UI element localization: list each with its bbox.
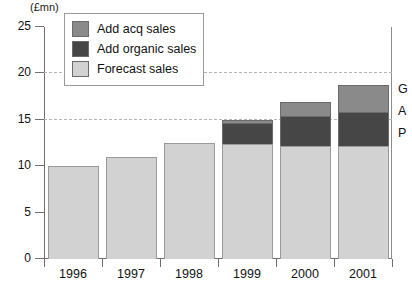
y-axis-tick: 10	[35, 165, 44, 166]
x-axis-tick	[44, 259, 45, 267]
legend: Add acq sales Add organic sales Forecast…	[64, 13, 204, 86]
legend-swatch-add-organic-sales	[72, 41, 89, 57]
x-axis-tick	[102, 259, 103, 267]
bar-segment-forecast-sales-2000[interactable]	[280, 146, 331, 259]
bar-segment-forecast-sales-1999[interactable]	[222, 144, 273, 259]
bar-segment-forecast-sales-1998[interactable]	[164, 143, 215, 259]
bar-2001[interactable]	[338, 85, 389, 259]
x-axis-label-1996: 1996	[48, 266, 99, 282]
bar-segment-add-acq-sales-2000[interactable]	[280, 102, 331, 116]
bar-segment-add-organic-sales-2001[interactable]	[338, 112, 389, 145]
bar-segment-forecast-sales-1997[interactable]	[106, 157, 157, 259]
x-axis-label-2000: 2000	[280, 266, 331, 282]
y-axis-tick-label: 0	[24, 251, 31, 266]
legend-swatch-forecast-sales	[72, 61, 89, 77]
legend-item-add-acq-sales[interactable]: Add acq sales	[72, 19, 196, 39]
x-axis-tick	[218, 259, 219, 267]
x-axis-tick	[334, 259, 335, 267]
x-axis-tick	[392, 259, 393, 267]
y-axis-tick-label: 20	[18, 65, 31, 80]
legend-label-add-organic-sales: Add organic sales	[97, 42, 196, 57]
bar-1999[interactable]	[222, 120, 273, 259]
bar-chart: (£mn) 0510152025 19961997199819992000200…	[0, 0, 412, 288]
legend-label-add-acq-sales: Add acq sales	[97, 22, 176, 37]
legend-swatch-add-acq-sales	[72, 21, 89, 37]
x-axis-label-1999: 1999	[222, 266, 273, 282]
bar-1997[interactable]	[106, 157, 157, 259]
x-axis-tick	[276, 259, 277, 267]
annotation-a: A	[398, 104, 406, 119]
bar-segment-forecast-sales-1996[interactable]	[48, 166, 99, 259]
x-axis-label-1998: 1998	[164, 266, 215, 282]
legend-item-add-organic-sales[interactable]: Add organic sales	[72, 39, 196, 59]
bar-2000[interactable]	[280, 102, 331, 259]
annotation-p: P	[398, 126, 406, 141]
bar-segment-forecast-sales-2001[interactable]	[338, 146, 389, 259]
y-axis-tick-label: 10	[18, 158, 31, 173]
bar-1998[interactable]	[164, 143, 215, 259]
legend-item-forecast-sales[interactable]: Forecast sales	[72, 59, 196, 79]
y-axis-tick: 15	[35, 119, 44, 120]
x-axis-label-2001: 2001	[338, 266, 389, 282]
y-axis-tick: 0	[35, 258, 44, 259]
y-axis-tick: 25	[35, 26, 44, 27]
legend-label-forecast-sales: Forecast sales	[97, 62, 178, 77]
bar-segment-add-acq-sales-2001[interactable]	[338, 85, 389, 113]
x-axis-label-1997: 1997	[106, 266, 157, 282]
y-axis-units-label: (£mn)	[30, 0, 59, 14]
bar-segment-add-organic-sales-1999[interactable]	[222, 123, 273, 144]
y-axis-tick-label: 25	[18, 19, 31, 34]
y-axis-tick: 5	[35, 212, 44, 213]
y-axis-tick: 20	[35, 72, 44, 73]
x-axis-tick	[160, 259, 161, 267]
bar-segment-add-organic-sales-2000[interactable]	[280, 116, 331, 146]
y-axis-tick-label: 15	[18, 112, 31, 127]
y-axis-tick-label: 5	[24, 205, 31, 220]
annotation-g: G	[398, 82, 408, 97]
bar-1996[interactable]	[48, 166, 99, 259]
